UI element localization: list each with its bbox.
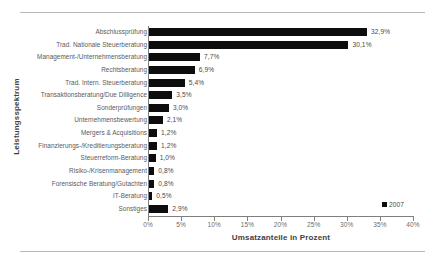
legend-swatch-2007 (382, 202, 387, 207)
bar-row: Finanzierungs-/Kreditierungsberatung1,2% (0, 140, 443, 153)
bar-value-label: 2,9% (172, 203, 187, 216)
bar-value-label: 2,1% (167, 114, 182, 127)
bar (149, 167, 154, 175)
bar (149, 91, 172, 99)
bar-row: Sonstiges2,9% (0, 203, 443, 216)
bar-row: Transaktionsberatung/Due Dilligence3,5% (0, 89, 443, 102)
bar (149, 180, 154, 188)
category-label: Sonstiges (118, 203, 147, 216)
bar-value-label: 30,1% (352, 39, 371, 52)
bar (149, 154, 156, 162)
bar-value-label: 5,4% (189, 77, 204, 90)
bar (149, 192, 152, 200)
bar-value-label: 0,8% (158, 165, 173, 178)
bar-row: Forensische Beratung/Gutachten0,8% (0, 178, 443, 191)
bar-chart-figure: Abschlussprüfung32,9%Trad. Nationale Ste… (0, 0, 443, 260)
bar (149, 66, 195, 74)
bar-row: Steuerreform-Beratung1,0% (0, 152, 443, 165)
x-tick-label: 25% (307, 221, 320, 228)
x-tick-label: 35% (373, 221, 386, 228)
bar-row: Abschlussprüfung32,9% (0, 26, 443, 39)
bar-value-label: 0,5% (156, 190, 171, 203)
top-divider-rule (20, 12, 425, 13)
bar (149, 28, 367, 36)
bottom-divider-rule (20, 251, 425, 252)
bar (149, 129, 157, 137)
bar-row: Trad. Intern. Steuerberatung5,4% (0, 77, 443, 90)
category-label: Risiko-/Krisenmanagement (69, 165, 147, 178)
bar-row: IT-Beratung0,5% (0, 190, 443, 203)
bar (149, 41, 348, 49)
x-axis-title: Umsatzanteile in Prozent (148, 233, 414, 242)
bar (149, 104, 169, 112)
bar (149, 116, 163, 124)
x-tick-label: 30% (340, 221, 353, 228)
category-label: Transaktionsberatung/Due Dilligence (41, 89, 147, 102)
bar-row: Unternehmensbewertung2,1% (0, 114, 443, 127)
bar-value-label: 0,8% (158, 178, 173, 191)
x-tick-label: 10% (208, 221, 221, 228)
bar (149, 79, 185, 87)
bar (149, 205, 168, 213)
category-label: Unternehmensbewertung (74, 114, 147, 127)
bar-row: Management-/Unternehmensberatung7,7% (0, 51, 443, 64)
category-label: Steuerreform-Beratung (81, 152, 147, 165)
x-tick-label: 5% (176, 221, 186, 228)
x-tick-label: 15% (241, 221, 254, 228)
category-label: Trad. Nationale Steuerberatung (56, 39, 147, 52)
bar-row: Trad. Nationale Steuerberatung30,1% (0, 39, 443, 52)
category-label: Forensische Beratung/Gutachten (52, 178, 147, 191)
category-label: Rechtsberatung (101, 64, 147, 77)
bar-value-label: 7,7% (204, 51, 219, 64)
chart-legend: 2007 (382, 201, 404, 208)
bar-value-label: 1,2% (161, 140, 176, 153)
bar-row: Risiko-/Krisenmanagement0,8% (0, 165, 443, 178)
x-tick-label: 40% (406, 221, 419, 228)
bar-value-label: 32,9% (371, 26, 390, 39)
y-axis-title: Leistungsspektrum (12, 67, 21, 167)
bar-value-label: 6,9% (199, 64, 214, 77)
bar-value-label: 1,0% (160, 152, 175, 165)
category-label: Sonderprüfungen (97, 102, 147, 115)
bar (149, 142, 157, 150)
legend-label-2007: 2007 (389, 201, 404, 208)
category-label: Mergers & Acquisitions (81, 127, 147, 140)
bar-row: Rechtsberatung6,9% (0, 64, 443, 77)
category-label: Finanzierungs-/Kreditierungsberatung (38, 140, 147, 153)
bar (149, 53, 200, 61)
category-label: Management-/Unternehmensberatung (37, 51, 147, 64)
bar-value-label: 3,0% (173, 102, 188, 115)
bar-value-label: 3,5% (176, 89, 191, 102)
bar-value-label: 1,2% (161, 127, 176, 140)
bar-row: Sonderprüfungen3,0% (0, 102, 443, 115)
category-label: Abschlussprüfung (95, 26, 147, 39)
x-tick-label: 20% (274, 221, 287, 228)
x-tick-label: 0% (143, 221, 153, 228)
category-label: Trad. Intern. Steuerberatung (65, 77, 147, 90)
bar-row: Mergers & Acquisitions1,2% (0, 127, 443, 140)
category-label: IT-Beratung (113, 190, 147, 203)
